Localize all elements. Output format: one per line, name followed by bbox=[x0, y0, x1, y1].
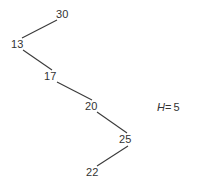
edge-13-30 bbox=[22, 20, 57, 38]
height-value-label: 5 bbox=[174, 101, 180, 113]
node-label-22: 22 bbox=[86, 166, 99, 178]
edge-20-25 bbox=[97, 112, 127, 133]
node-label-30: 30 bbox=[56, 8, 69, 20]
node-label-13: 13 bbox=[11, 38, 24, 50]
edge-13-17 bbox=[23, 50, 52, 70]
height-operator-label: = bbox=[165, 101, 171, 113]
edge-17-20 bbox=[57, 82, 92, 100]
node-label-17: 17 bbox=[44, 70, 57, 82]
node-label-20: 20 bbox=[85, 100, 98, 112]
edge-25-22 bbox=[97, 146, 128, 166]
node-label-25: 25 bbox=[119, 133, 132, 145]
height-annotation: H= 5 bbox=[157, 101, 180, 113]
height-variable-label: H bbox=[157, 101, 165, 113]
edge-layer bbox=[0, 0, 198, 188]
tree-diagram-figure: 30 13 17 20 25 22 H= 5 bbox=[0, 0, 198, 188]
